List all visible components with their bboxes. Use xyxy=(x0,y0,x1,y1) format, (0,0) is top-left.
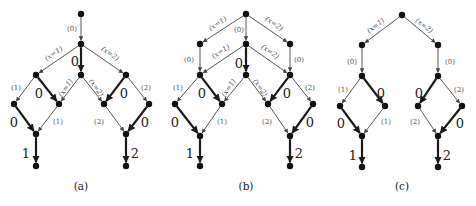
edge-arrow xyxy=(106,107,124,131)
edge-label: 1 xyxy=(22,146,30,161)
graph-node xyxy=(123,131,129,137)
edge-label: (2) xyxy=(305,84,315,92)
edge-label: 0 xyxy=(456,116,464,131)
graph-node xyxy=(382,103,388,109)
edge-label: 2 xyxy=(295,146,303,161)
edge-label: (1) xyxy=(338,86,348,94)
edge-label: 0 xyxy=(198,86,206,101)
edge-label: (0) xyxy=(294,56,304,64)
graph-node xyxy=(337,103,343,109)
panel-caption: (a) xyxy=(74,180,88,192)
graph-node xyxy=(197,72,203,78)
graph-node xyxy=(197,163,203,169)
graph-node xyxy=(287,72,293,78)
panel-caption: (b) xyxy=(239,180,254,192)
graph-node xyxy=(219,101,225,107)
graph-node xyxy=(459,103,465,109)
graph-node xyxy=(287,133,293,139)
edge-arrow xyxy=(16,107,34,131)
edge-label: (x=1) xyxy=(210,43,231,61)
edge-label: 1 xyxy=(186,146,194,161)
edge-label: (2) xyxy=(141,84,151,92)
edge-label: (0) xyxy=(67,25,77,33)
graph-node xyxy=(146,101,152,107)
edge-label: (x=1) xyxy=(207,15,228,33)
edge-label: (0) xyxy=(184,56,194,64)
graph-node xyxy=(33,131,39,137)
edge-label: 0 xyxy=(120,86,128,101)
graph-node xyxy=(359,73,365,79)
graph-node xyxy=(101,101,107,107)
graph-node xyxy=(435,164,441,170)
panel-c-graph: (x=1)(x=2)(0)(0)(1)00(2)0(1)(2)012(c) xyxy=(337,12,465,192)
edge-label: (x=1) xyxy=(366,16,387,35)
edge-label: 0 xyxy=(71,54,79,69)
graph-node xyxy=(435,42,441,48)
graph-node xyxy=(287,41,293,47)
edge-label: (0) xyxy=(347,58,357,66)
edge-label: (x=2) xyxy=(100,45,121,63)
figure-canvas: (0)(x=1)0(x=2)(1)0(x=1)(x=2)0(2)0(1)(2)0… xyxy=(0,0,476,206)
edge-arrow xyxy=(177,107,198,134)
edge-label: (1) xyxy=(173,84,183,92)
edge-label: 1 xyxy=(349,148,357,163)
graph-node xyxy=(33,72,39,78)
graph-node xyxy=(435,133,441,139)
edge-label: 0 xyxy=(35,86,43,101)
edge-label: (2) xyxy=(410,118,420,126)
graph-node xyxy=(415,103,421,109)
graph-node xyxy=(197,41,203,47)
graph-node xyxy=(399,12,405,18)
graph-node xyxy=(243,11,249,17)
graph-node xyxy=(197,133,203,139)
edge-label: (1) xyxy=(11,84,21,92)
panel-b-graph: (x=1)(0)(x=2)(0)(x=1)0(x=2)(0)(1)0(x=1)(… xyxy=(171,11,316,192)
edge-label: (2) xyxy=(94,118,104,126)
edge-label: (x=1) xyxy=(43,45,64,63)
edge-label: (1) xyxy=(381,118,391,126)
edge-label: (x=2) xyxy=(264,15,285,33)
panel-a-graph: (0)(x=1)0(x=2)(1)0(x=1)(x=2)0(2)0(1)(2)0… xyxy=(10,11,152,192)
graph-node xyxy=(78,11,84,17)
edge-label: 0 xyxy=(306,115,314,130)
edge-label: (x=2) xyxy=(260,43,281,61)
graph-node xyxy=(435,73,441,79)
graph-figure: (0)(x=1)0(x=2)(1)0(x=1)(x=2)0(2)0(1)(2)0… xyxy=(0,0,476,206)
edge-label: 2 xyxy=(131,146,139,161)
edge-label: 2 xyxy=(443,148,451,163)
graph-node xyxy=(123,72,129,78)
graph-node xyxy=(78,41,84,47)
edge-label: (1) xyxy=(53,118,63,126)
graph-node xyxy=(310,101,316,107)
edge-label: (x=2) xyxy=(87,78,105,99)
edge-label: 0 xyxy=(377,86,385,101)
graph-node xyxy=(359,42,365,48)
edge-label: 0 xyxy=(235,56,243,71)
edge-label: (2) xyxy=(262,118,272,126)
edge-label: 0 xyxy=(283,86,291,101)
graph-node xyxy=(123,163,129,169)
graph-node xyxy=(11,101,17,107)
edge-label: (0) xyxy=(234,26,244,34)
edge-arrow xyxy=(420,109,436,133)
edge-label: 0 xyxy=(171,115,179,130)
graph-node xyxy=(287,163,293,169)
graph-node xyxy=(56,101,62,107)
edge-label: (x=2) xyxy=(251,78,269,99)
graph-node xyxy=(243,72,249,78)
graph-node xyxy=(172,101,178,107)
edge-label: (0) xyxy=(445,58,455,66)
edge-label: (2) xyxy=(454,86,464,94)
panel-caption: (c) xyxy=(395,180,409,192)
graph-node xyxy=(78,72,84,78)
edge-label: 0 xyxy=(337,116,345,131)
graph-node xyxy=(265,101,271,107)
graph-node xyxy=(359,133,365,139)
edge-arrow xyxy=(270,107,288,133)
edge-label: (x=2) xyxy=(414,17,435,36)
edge-label: 0 xyxy=(141,115,149,130)
graph-node xyxy=(243,41,249,47)
edge-label: 0 xyxy=(415,86,423,101)
graph-node xyxy=(33,163,39,169)
graph-node xyxy=(359,164,365,170)
